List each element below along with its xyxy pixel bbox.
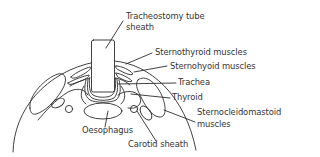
left-small-vessel-shape bbox=[65, 105, 72, 112]
label-tracheostomy-tube-line2: sheath bbox=[126, 22, 154, 32]
leader-sternohyoid bbox=[134, 66, 167, 72]
leader-carotid bbox=[137, 111, 156, 141]
label-sternothyroid: Sternothyroid muscles bbox=[155, 47, 247, 57]
leader-scm bbox=[164, 110, 195, 122]
label-thyroid: Thyroid bbox=[172, 92, 203, 102]
left-sternothyroid-shape bbox=[71, 67, 91, 78]
leader-trachea bbox=[118, 83, 176, 84]
right-small-vessel-shape bbox=[130, 105, 137, 112]
left-carotid-shape bbox=[50, 96, 66, 110]
label-sternocleidomastoid-line2: muscles bbox=[197, 119, 231, 129]
right-fascia-line bbox=[118, 91, 141, 108]
left-sternocleidomastoid-shape bbox=[30, 74, 66, 115]
label-oesophagus: Oesophagus bbox=[82, 125, 133, 135]
leader-sternothyroid bbox=[126, 53, 152, 64]
label-carotid-sheath: Carotid sheath bbox=[128, 139, 188, 149]
leader-thyroid bbox=[131, 94, 170, 98]
tracheostomy-tube-shape bbox=[92, 40, 115, 92]
label-tracheostomy-tube-line1: Tracheostomy tube bbox=[126, 11, 205, 21]
label-trachea: Trachea bbox=[178, 77, 210, 87]
label-sternocleidomastoid-line1: Sternocleidomastoid bbox=[197, 107, 281, 117]
oesophagus-shape bbox=[84, 103, 122, 119]
label-sternohyoid: Sternohyoid muscles bbox=[170, 61, 256, 71]
